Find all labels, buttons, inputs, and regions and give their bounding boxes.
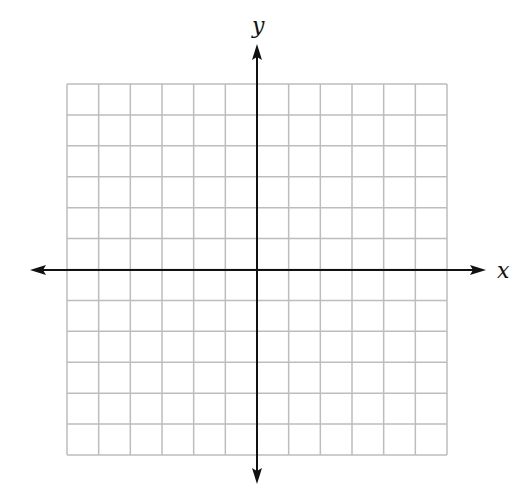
y-axis (252, 44, 262, 484)
coordinate-plane: x y (0, 0, 529, 497)
x-axis-label: x (497, 258, 510, 283)
y-axis-label: y (251, 13, 265, 38)
